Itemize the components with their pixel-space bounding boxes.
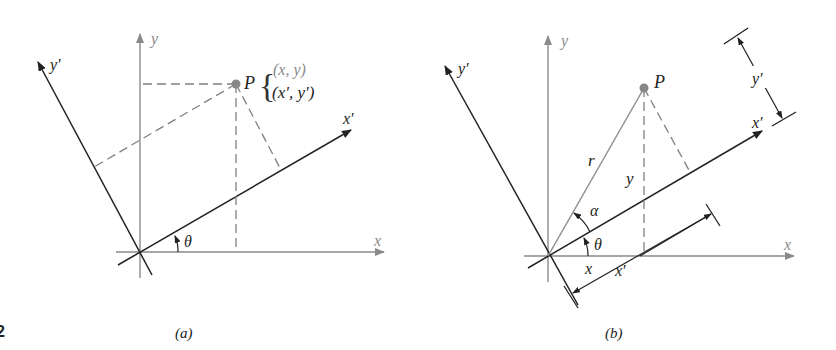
label-x-prime-b: x′ [751, 114, 763, 131]
label-y-prime-b: y′ [456, 60, 469, 78]
y-prime-dimension-tick-top [724, 28, 748, 44]
theta-arc-icon [175, 236, 178, 252]
label-theta: θ [184, 233, 192, 250]
label-y: y [149, 30, 159, 48]
label-y-segment: y [624, 169, 634, 188]
caption-b: (b) [605, 325, 623, 342]
label-alpha: α [590, 202, 599, 219]
label-y-b: y [559, 32, 569, 50]
x-prime-axis-b [528, 131, 762, 268]
theta-arc-icon-b [584, 238, 588, 256]
label-x-prime-dimension: x′ [614, 262, 626, 279]
y-prime-dimension-tick-bottom [772, 112, 796, 126]
x-prime-axis [118, 130, 351, 265]
point-p-b [640, 84, 649, 93]
x-prime-dimension-from-foot [640, 214, 711, 256]
coords-original: (x, y) [273, 61, 306, 79]
label-y-prime-dimension: y′ [750, 70, 763, 88]
label-y-prime: y′ [48, 56, 61, 74]
figure-number-fragment: 2 [0, 323, 5, 340]
point-p [232, 80, 241, 89]
label-x: x [373, 232, 381, 249]
label-x-segment: x [584, 260, 592, 277]
y-prime-axis-b [445, 66, 578, 305]
y-prime-axis [38, 62, 152, 275]
projection-lines [94, 84, 280, 252]
panel-b: y y′ x′ x P r y α θ x x′ y′ (b) [445, 28, 796, 342]
label-point-p-b: P [653, 72, 665, 92]
coords-rotated: (x′, y′) [272, 83, 315, 102]
x-prime-dimension-tick-start [564, 286, 578, 308]
panel-a: y y′ x′ x θ P { (x, y) (x′, y′) (a) 2 [0, 30, 384, 342]
label-x-prime: x′ [342, 110, 354, 127]
label-r: r [588, 151, 595, 170]
rotation-of-axes-figure: y y′ x′ x θ P { (x, y) (x′, y′) (a) 2 [0, 0, 836, 350]
label-point-p: P [243, 73, 255, 93]
label-x-b: x [783, 236, 791, 253]
label-theta-b: θ [594, 236, 602, 253]
alpha-arc-icon [574, 213, 590, 232]
caption-a: (a) [175, 325, 193, 342]
